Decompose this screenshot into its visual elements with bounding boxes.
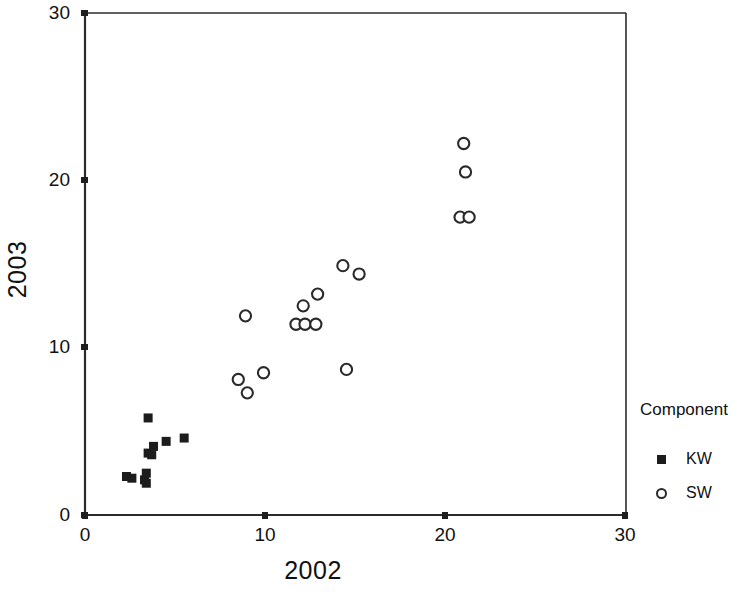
ytick-label-0: 0 (30, 504, 70, 526)
data-point (258, 367, 269, 378)
series-kw (122, 413, 189, 487)
legend: Component KW SW (640, 400, 733, 510)
ytick-10 (81, 344, 88, 350)
scatter-chart: 30 20 10 0 0 10 20 30 2002 2003 Componen… (0, 0, 733, 603)
open-circle-icon (650, 488, 672, 499)
legend-item-sw[interactable]: SW (650, 476, 733, 510)
y-axis-title: 2003 (3, 190, 32, 350)
data-point (142, 479, 151, 488)
ytick-label-10: 10 (30, 336, 70, 358)
data-point (354, 268, 365, 279)
xtick-label-0: 0 (65, 524, 105, 546)
xtick-label-10: 10 (245, 524, 285, 546)
xtick-label-20: 20 (425, 524, 465, 546)
data-point (298, 300, 309, 311)
x-axis-title: 2002 (0, 556, 626, 585)
data-point (337, 260, 348, 271)
ytick-20 (81, 177, 88, 183)
data-point (341, 364, 352, 375)
data-point (242, 387, 253, 398)
data-point (233, 374, 244, 385)
xtick-20 (442, 512, 448, 519)
data-point (147, 450, 156, 459)
data-point (149, 442, 158, 451)
data-point (240, 310, 251, 321)
data-point (142, 469, 151, 478)
data-point (162, 437, 171, 446)
legend-label-kw: KW (686, 450, 712, 468)
data-point (310, 319, 321, 330)
ytick-30 (81, 10, 88, 16)
data-point (180, 434, 189, 443)
xtick-0 (82, 512, 88, 519)
data-point (127, 474, 136, 483)
data-point (460, 166, 471, 177)
data-series-layer (122, 138, 475, 488)
data-point (299, 319, 310, 330)
data-point (144, 413, 153, 422)
xtick-30 (622, 512, 628, 519)
filled-square-icon (650, 455, 672, 464)
ytick-label-20: 20 (30, 169, 70, 191)
xtick-10 (262, 512, 268, 519)
xtick-label-30: 30 (605, 524, 645, 546)
legend-title: Component (640, 400, 733, 420)
data-point (458, 138, 469, 149)
legend-label-sw: SW (686, 484, 712, 502)
series-sw (233, 138, 475, 399)
ytick-label-30: 30 (30, 2, 70, 24)
legend-item-kw[interactable]: KW (650, 442, 733, 476)
plot-canvas (0, 0, 733, 603)
data-point (312, 289, 323, 300)
data-point (464, 212, 475, 223)
